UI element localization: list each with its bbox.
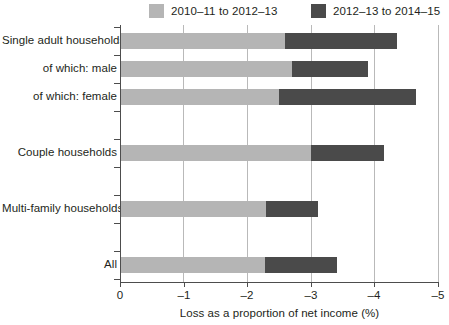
bar-segment-light <box>120 145 311 161</box>
x-tick-label-m5: –5 <box>418 289 449 302</box>
x-tick-label-m1: –1 <box>164 289 204 302</box>
legend-swatch-light <box>149 4 164 18</box>
y-label-multi-family-households: Multi-family households <box>2 202 117 215</box>
x-tick-label-m4: –4 <box>354 289 394 302</box>
x-axis-title: Loss as a proportion of net income (%) <box>120 307 439 320</box>
x-tick-m2 <box>247 282 248 287</box>
x-axis-line <box>120 282 439 283</box>
x-tick-m5 <box>438 282 439 287</box>
plot-area <box>120 25 438 282</box>
legend-item-2010-11-to-2012-13: 2010–11 to 2012–13 <box>149 2 277 20</box>
x-tick-m3 <box>311 282 312 287</box>
x-tick-label-m3: –3 <box>291 289 331 302</box>
legend-item-2012-13-to-2014-15: 2012–13 to 2014–15 <box>311 2 440 20</box>
y-label-single-adult-households: Single adult households <box>2 34 117 47</box>
x-tick-m1 <box>184 282 185 287</box>
bar-segment-dark <box>266 201 318 217</box>
x-tick-0 <box>120 282 121 287</box>
x-tick-m4 <box>374 282 375 287</box>
bar-segment-dark <box>292 61 368 77</box>
legend-label-1: 2012–13 to 2014–15 <box>333 4 440 18</box>
x-tick-label-m2: –2 <box>227 289 267 302</box>
bar-segment-dark <box>279 89 416 105</box>
bar-segment-dark <box>265 257 337 273</box>
bar-segment-light <box>120 33 285 49</box>
y-label-of-which-male: of which: male <box>2 62 117 75</box>
bar-segment-light <box>120 89 279 105</box>
bar-segment-dark <box>311 145 384 161</box>
y-axis-category-labels: Single adult households of which: male o… <box>0 0 117 325</box>
y-label-couple-households: Couple households <box>2 146 117 159</box>
x-tick-label-0: 0 <box>100 289 140 302</box>
bar-segment-light <box>120 61 292 77</box>
legend-swatch-dark <box>311 4 326 18</box>
bar-segment-dark <box>285 33 397 49</box>
gridline-minus-5 <box>438 25 439 282</box>
y-label-of-which-female: of which: female <box>2 90 117 103</box>
bar-segment-light <box>120 257 265 273</box>
y-label-all: All <box>2 258 117 271</box>
bar-segment-light <box>120 201 266 217</box>
legend-label-0: 2010–11 to 2012–13 <box>171 4 277 18</box>
y-axis-line <box>120 25 121 283</box>
